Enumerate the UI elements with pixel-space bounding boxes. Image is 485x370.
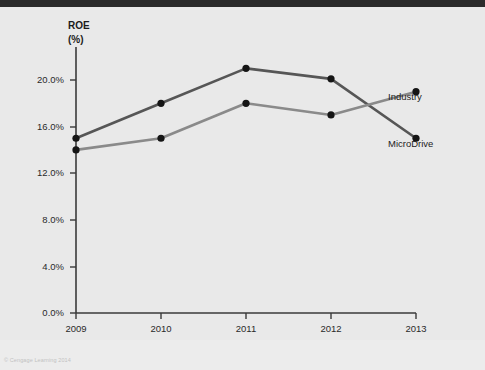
chart-figure: ROE (%) 0.0% 4.0% 8.0% 12.0% 16.0% 20.0% — [0, 7, 485, 340]
data-point-industry-2011 — [242, 100, 249, 107]
y-tick-label-4: 16.0% — [37, 121, 64, 132]
data-point-microdrive-2009 — [72, 135, 79, 142]
series-label-microdrive: MicroDrive — [388, 138, 433, 149]
y-tick-label-2: 8.0% — [42, 214, 64, 225]
data-point-industry-2009 — [72, 146, 79, 153]
y-tick-label-1: 4.0% — [42, 261, 64, 272]
x-tick-label-2013: 2013 — [405, 323, 426, 334]
x-tick-label-2011: 2011 — [236, 323, 256, 334]
data-point-microdrive-2011 — [242, 65, 249, 72]
series-layer — [72, 65, 419, 154]
data-point-microdrive-2010 — [157, 100, 164, 107]
data-point-industry-2010 — [157, 135, 164, 142]
series-label-industry: Industry — [388, 91, 422, 102]
y-axis-ticks — [70, 80, 76, 313]
bottom-band — [0, 340, 485, 370]
chart-title: ROE — [68, 20, 90, 31]
copyright-notice: © Cengage Learning 2014 — [4, 357, 71, 363]
x-axis-ticks — [76, 313, 416, 319]
data-point-industry-2012 — [327, 111, 334, 118]
top-dark-band — [0, 0, 485, 7]
y-tick-label-0: 0.0% — [42, 307, 64, 318]
data-point-microdrive-2012 — [327, 75, 334, 82]
y-tick-label-5: 20.0% — [37, 74, 64, 85]
roe-line-chart: ROE (%) 0.0% 4.0% 8.0% 12.0% 16.0% 20.0% — [0, 7, 485, 340]
x-tick-label-2010: 2010 — [150, 323, 171, 334]
x-tick-label-2012: 2012 — [320, 323, 341, 334]
chart-subtitle: (%) — [68, 34, 84, 45]
x-tick-label-2009: 2009 — [65, 323, 86, 334]
y-tick-label-3: 12.0% — [37, 167, 64, 178]
